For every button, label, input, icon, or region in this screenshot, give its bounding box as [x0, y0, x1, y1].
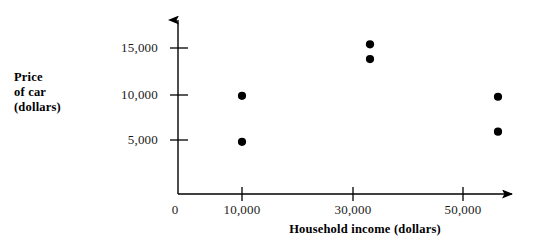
- data-point: [238, 92, 246, 100]
- y-tick-label-5000: 5,000: [84, 132, 158, 148]
- scatter-plot-figure: 15,000 10,000 5,000 0 10,000 30,000 50,0…: [0, 0, 544, 246]
- x-tick-label-0: 0: [145, 202, 205, 218]
- x-axis-title: Household income (dollars): [0, 222, 544, 237]
- y-axis-title-line-1: Price: [14, 70, 61, 85]
- x-tick-label-30000: 30,000: [313, 202, 393, 218]
- x-tick-label-50000: 50,000: [423, 202, 503, 218]
- data-point: [238, 138, 246, 146]
- data-point: [494, 128, 502, 136]
- data-point: [366, 40, 374, 48]
- y-axis-title: Price of car (dollars): [14, 70, 61, 115]
- data-point-group: [238, 40, 502, 146]
- data-point: [494, 93, 502, 101]
- data-point: [366, 55, 374, 63]
- y-tick-label-15000: 15,000: [84, 40, 158, 56]
- y-tick-label-10000: 10,000: [84, 87, 158, 103]
- y-axis-title-line-2: of car: [14, 85, 61, 100]
- x-tick-label-10000: 10,000: [202, 202, 282, 218]
- y-axis-title-line-3: (dollars): [14, 100, 61, 115]
